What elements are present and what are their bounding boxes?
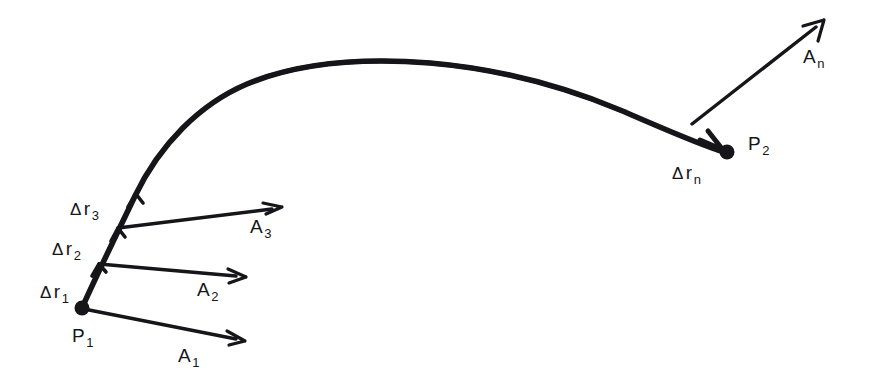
- label-delta-rn: Δrn: [672, 162, 701, 187]
- path-curve-ink-overlay: [247, 61, 620, 110]
- vector-A2-subscript: 2: [210, 289, 218, 304]
- delta-r2-var: r: [66, 238, 73, 259]
- delta-r3-var: r: [84, 198, 91, 219]
- vector-An-subscript: n: [816, 56, 824, 71]
- vector-A3-var: A: [250, 216, 263, 237]
- delta-rn-var: r: [686, 162, 693, 183]
- delta-symbol: Δ: [672, 164, 686, 183]
- label-delta-r2: Δr2: [52, 238, 81, 263]
- vector-A1-var: A: [178, 345, 191, 366]
- vector-A3-shaft: [118, 209, 272, 228]
- point-P1-subscript: 1: [85, 335, 93, 350]
- label-vector-A3: A3: [250, 216, 271, 241]
- vector-A3-subscript: 3: [263, 226, 271, 241]
- figure-canvas: [0, 0, 872, 386]
- label-point-P2: P2: [748, 133, 769, 158]
- vector-An-var: A: [803, 46, 816, 67]
- delta-r3-subscript: 3: [91, 208, 99, 223]
- point-P2-var: P: [748, 133, 761, 154]
- label-vector-An: An: [803, 46, 824, 71]
- point-P2-subscript: 2: [761, 143, 769, 158]
- delta-r1-subscript: 1: [61, 291, 69, 306]
- point-P1-var: P: [72, 325, 85, 346]
- line-integral-figure: Δr1 Δr2 Δr3 Δrn A1 A2 A3 An P1 P2: [0, 0, 872, 386]
- vector-A1-shaft: [84, 309, 236, 339]
- label-point-P1: P1: [72, 325, 93, 350]
- label-vector-A2: A2: [197, 279, 218, 304]
- delta-symbol: Δ: [70, 200, 84, 219]
- delta-r1-var: r: [54, 281, 61, 302]
- vector-A2-var: A: [197, 279, 210, 300]
- delta-symbol: Δ: [40, 283, 54, 302]
- delta-symbol: Δ: [52, 240, 66, 259]
- point-marker-P1: [75, 301, 90, 316]
- label-delta-r3: Δr3: [70, 198, 99, 223]
- point-marker-P2: [720, 145, 735, 160]
- label-vector-A1: A1: [178, 345, 199, 370]
- vector-An-shaft: [692, 27, 816, 124]
- vector-A1-subscript: 1: [191, 355, 199, 370]
- delta-rn-subscript: n: [693, 172, 701, 187]
- vector-A2-shaft: [99, 264, 236, 276]
- delta-r2-subscript: 2: [73, 248, 81, 263]
- label-delta-r1: Δr1: [40, 281, 69, 306]
